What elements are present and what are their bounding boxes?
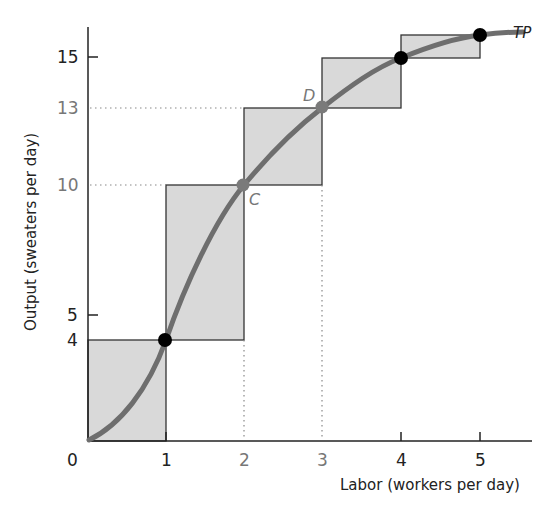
mp-box-2 bbox=[166, 185, 244, 340]
x-axis-title: Labor (workers per day) bbox=[340, 476, 520, 494]
point-d bbox=[316, 101, 329, 114]
y-tick-label-15: 15 bbox=[57, 47, 79, 67]
y-tick-label-10: 10 bbox=[57, 175, 79, 195]
y-tick-label-4: 4 bbox=[67, 330, 78, 350]
point-5 bbox=[473, 28, 487, 42]
x-tick-label-0: 0 bbox=[67, 450, 78, 470]
x-tick-label-2: 2 bbox=[239, 450, 250, 470]
point-1 bbox=[158, 333, 172, 347]
mp-box-1 bbox=[88, 340, 166, 441]
point-c-label: C bbox=[249, 190, 261, 209]
x-tick-label-3: 3 bbox=[317, 450, 328, 470]
x-tick-label-4: 4 bbox=[396, 450, 407, 470]
y-tick-label-5: 5 bbox=[67, 305, 78, 325]
x-tick-label-5: 5 bbox=[475, 450, 486, 470]
point-d-label: D bbox=[303, 86, 315, 105]
x-tick-label-1: 1 bbox=[161, 450, 172, 470]
y-axis-title: Output (sweaters per day) bbox=[22, 133, 40, 331]
point-c bbox=[237, 179, 250, 192]
tp-curve-label: TP bbox=[513, 24, 532, 42]
chart-canvas: C D TP 15 13 10 5 4 0 1 2 3 4 5 Labor (w… bbox=[0, 0, 560, 512]
point-4 bbox=[394, 51, 408, 65]
y-tick-label-13: 13 bbox=[57, 98, 79, 118]
